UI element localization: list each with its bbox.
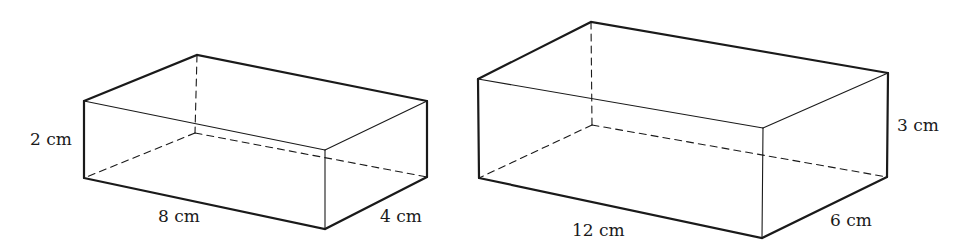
large-box-height-label: 3 cm [897, 115, 939, 135]
large-box-right-edge [887, 73, 888, 177]
large-box-front-corner-edge [762, 128, 763, 238]
small-box: 2 cm 8 cm 4 cm [30, 55, 427, 229]
large-box-left-edge [478, 79, 479, 178]
small-box-top-front-edge [84, 101, 325, 150]
small-box-hidden-vertical [195, 55, 197, 133]
small-box-bottom-edges [84, 177, 427, 229]
large-box-length-label: 12 cm [572, 220, 625, 240]
small-box-hidden-back [195, 133, 427, 177]
large-box-bottom-edges [479, 177, 887, 238]
small-box-top-back-edges [84, 55, 427, 101]
large-box-hidden-vertical [591, 22, 592, 125]
large-box-hidden-back [592, 125, 887, 177]
large-box-top-back-edges [478, 22, 888, 79]
large-box-hidden-left [479, 125, 592, 178]
small-box-width-label: 4 cm [380, 206, 422, 226]
large-box: 3 cm 12 cm 6 cm [478, 22, 939, 240]
small-box-height-label: 2 cm [30, 129, 72, 149]
large-box-width-label: 6 cm [830, 210, 872, 230]
diagram-canvas: 2 cm 8 cm 4 cm 3 cm 12 cm 6 cm [0, 0, 974, 246]
large-box-top-front-edge [478, 79, 763, 128]
small-box-hidden-left [84, 133, 195, 178]
large-box-top-side-edge [763, 73, 888, 128]
small-box-top-side-edge [325, 101, 427, 150]
small-box-length-label: 8 cm [158, 206, 200, 226]
